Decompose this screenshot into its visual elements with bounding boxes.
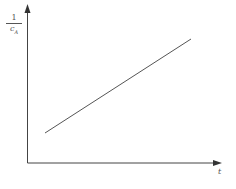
data-line (45, 39, 191, 133)
y-label-denominator: cA (6, 24, 22, 35)
y-label-numerator: 1 (6, 14, 22, 24)
x-axis-label: t (218, 167, 221, 176)
chart-canvas (0, 0, 236, 189)
y-axis-arrow-icon (25, 4, 31, 13)
x-axis-arrow-icon (213, 160, 222, 166)
y-axis-label: 1 cA (6, 14, 22, 35)
